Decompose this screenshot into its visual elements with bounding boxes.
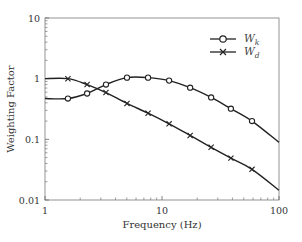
circle-marker-icon: [145, 75, 150, 80]
x-marker-icon: [188, 133, 193, 138]
x-axis-title: Frequency (Hz): [122, 219, 201, 230]
series-line-wd: [45, 78, 279, 190]
y-tick-label: 1: [34, 73, 40, 84]
y-tick-label: 0.1: [25, 134, 40, 145]
y-tick-label: 0.01: [19, 195, 40, 206]
x-tick-label: 100: [270, 205, 288, 216]
circle-marker-icon: [65, 96, 70, 101]
circle-marker-icon: [85, 91, 90, 96]
x-marker-icon: [124, 101, 129, 106]
x-axis-ticks: 110100: [42, 196, 288, 216]
x-tick-label: 1: [42, 205, 48, 216]
y-axis-ticks: 0.010.1110: [19, 13, 49, 206]
circle-marker-icon: [228, 106, 233, 111]
x-marker-icon: [209, 145, 214, 150]
circle-marker-icon: [188, 85, 193, 90]
y-tick-label: 10: [28, 13, 40, 24]
x-tick-label: 10: [156, 205, 168, 216]
legend-item-wd: Wd: [210, 45, 260, 60]
x-marker-icon: [167, 121, 172, 126]
circle-marker-icon: [249, 118, 254, 123]
circle-marker-icon: [167, 78, 172, 83]
x-marker-icon: [249, 167, 254, 172]
legend: Wk Wd: [210, 32, 260, 60]
y-axis-title: Weighting Factor: [5, 65, 16, 153]
x-marker-icon: [228, 156, 233, 161]
circle-marker-icon: [124, 75, 129, 80]
weighting-factor-chart: 0.010.1110 110100 Frequency (Hz) Weighti…: [0, 0, 302, 242]
circle-marker-icon: [220, 36, 226, 42]
x-marker-icon: [103, 90, 108, 95]
x-marker-icon: [145, 111, 150, 116]
series-line-wk: [45, 77, 279, 142]
svg-text:Wd: Wd: [244, 45, 260, 60]
circle-marker-icon: [209, 95, 214, 100]
data-series: [45, 75, 279, 190]
circle-marker-icon: [103, 82, 108, 87]
